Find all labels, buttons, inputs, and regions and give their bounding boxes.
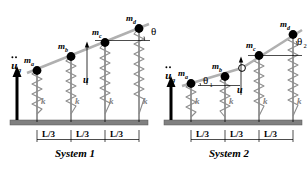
ground-excitation-arrow [167, 76, 176, 120]
system-caption: System 1 [55, 147, 95, 159]
dimension-label-3: L/3 [264, 129, 278, 139]
angle-label-theta1-sub: 1 [210, 81, 213, 88]
spring-label-k1: k [41, 96, 46, 106]
ground-bar [10, 120, 148, 125]
dimension-label-2: L/3 [76, 129, 90, 139]
mass-label-ma-sub: a [185, 74, 188, 80]
mass-label-md: m d [280, 19, 291, 31]
mass-label-ma-base: m [178, 68, 185, 78]
mass-label-mc-base: m [246, 40, 253, 50]
ground-excitation-sub: g [17, 66, 22, 73]
ground-excitation-label: u g [11, 56, 22, 72]
mass-label-ma: m a [178, 68, 188, 80]
mass-label-md-base: m [280, 19, 287, 29]
mass-label-md-sub: d [133, 19, 137, 25]
mass-label-mc-sub: c [99, 33, 102, 39]
mass-label-mb-base: m [212, 61, 219, 71]
system-caption: System 2 [209, 147, 250, 159]
mass-label-mb-sub: b [65, 47, 68, 53]
spring-label-k4: k [297, 96, 302, 106]
mass-label-mc: m c [246, 40, 256, 52]
ground-excitation-sub: g [171, 76, 176, 83]
mid-hinge-icon [239, 65, 246, 72]
mechanics-diagram: u g k k k k [0, 0, 308, 170]
spring-label-k3: k [263, 96, 268, 106]
dimension-label-3: L/3 [110, 129, 124, 139]
rigid-bar [27, 24, 149, 73]
angle-label-theta1-glyph: θ [203, 74, 208, 86]
mass-label-md: m d [126, 13, 137, 25]
mass-mc [101, 38, 110, 47]
mass-label-mc-base: m [92, 27, 99, 37]
spring-label-k2: k [229, 96, 234, 106]
mass-md [135, 24, 144, 33]
ground-excitation-arrow [13, 66, 22, 120]
mass-mb [221, 72, 230, 81]
mass-mc [255, 51, 264, 60]
system-1-group: u g k k k k [10, 13, 156, 159]
spring-label-k4: k [143, 96, 148, 106]
mass-label-mb-base: m [58, 41, 65, 51]
figure-canvas: u g k k k k [0, 0, 308, 170]
mass-label-mc: m c [92, 27, 102, 39]
mass-label-mc-sub: c [253, 46, 256, 52]
system-2-group: u g k k k k [164, 19, 307, 159]
angle-label-theta2-sub: 2 [304, 42, 307, 49]
mass-label-ma-sub: a [31, 61, 34, 67]
dimension-label-1: L/3 [42, 129, 56, 139]
mass-label-ma: m a [24, 55, 34, 67]
ground-excitation-base: u [165, 69, 171, 81]
ground-bar [164, 120, 302, 125]
mass-label-ma-base: m [24, 55, 31, 65]
spring-label-k1: k [195, 96, 200, 106]
mass-ma [33, 66, 42, 75]
spring-label-k2: k [75, 96, 80, 106]
mass-label-md-sub: d [287, 25, 291, 31]
mass-ma [187, 79, 196, 88]
mass-label-mb-sub: b [219, 67, 222, 73]
ground-excitation-label: u g [165, 66, 176, 82]
theta1-arc [200, 83, 201, 86]
dimension-label-2: L/3 [230, 129, 244, 139]
dimension-label-1: L/3 [196, 129, 210, 139]
mass-label-md-base: m [126, 13, 133, 23]
angle-label-theta2-glyph: θ [297, 35, 302, 47]
displacement-label-u: u [83, 74, 89, 85]
mass-label-mb: m b [212, 61, 222, 73]
angle-label-theta2: θ 2 [297, 35, 307, 49]
angle-label-theta: θ [151, 25, 156, 37]
mass-mb [67, 52, 76, 61]
ground-excitation-base: u [11, 59, 17, 71]
displacement-label-u: u [237, 84, 243, 95]
mass-label-mb: m b [58, 41, 68, 53]
spring-label-k3: k [109, 96, 114, 106]
